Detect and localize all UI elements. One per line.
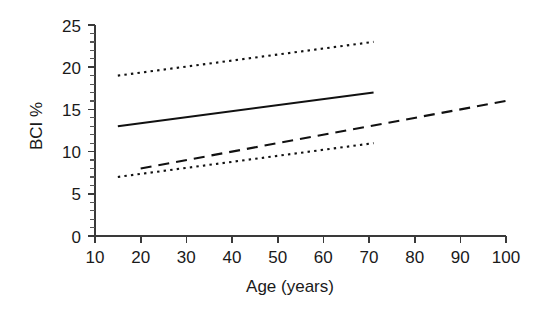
x-tick-label-90: 90 — [451, 248, 470, 267]
x-tick-label-70: 70 — [360, 248, 379, 267]
series-second-group-line — [141, 101, 506, 169]
chart-figure: 0 5 10 15 20 25 10 20 30 40 50 60 70 80 … — [0, 0, 552, 309]
series-upper-confidence-limit — [118, 42, 374, 76]
y-tick-label-20: 20 — [62, 59, 81, 78]
line-chart: 0 5 10 15 20 25 10 20 30 40 50 60 70 80 … — [0, 0, 552, 309]
y-tick-label-25: 25 — [62, 17, 81, 36]
x-axis-title: Age (years) — [246, 277, 334, 296]
x-axis-major-ticks — [95, 236, 506, 243]
x-axis-tick-labels: 10 20 30 40 50 60 70 80 90 100 — [86, 248, 521, 267]
x-tick-label-20: 20 — [131, 248, 150, 267]
y-axis-major-ticks — [88, 25, 95, 236]
x-tick-label-10: 10 — [86, 248, 105, 267]
y-tick-label-0: 0 — [72, 228, 81, 247]
x-tick-label-30: 30 — [177, 248, 196, 267]
series-group — [118, 42, 506, 177]
y-axis-tick-labels: 0 5 10 15 20 25 — [62, 17, 81, 247]
x-tick-label-100: 100 — [492, 248, 520, 267]
y-tick-label-10: 10 — [62, 143, 81, 162]
y-axis-title: BCI % — [27, 102, 46, 150]
y-tick-label-15: 15 — [62, 101, 81, 120]
y-tick-label-5: 5 — [72, 185, 81, 204]
series-lower-confidence-limit — [118, 143, 374, 177]
x-tick-label-50: 50 — [268, 248, 287, 267]
x-tick-label-80: 80 — [405, 248, 424, 267]
series-regression-line — [118, 93, 374, 127]
x-tick-label-60: 60 — [314, 248, 333, 267]
x-tick-label-40: 40 — [223, 248, 242, 267]
axes-group — [95, 25, 506, 236]
